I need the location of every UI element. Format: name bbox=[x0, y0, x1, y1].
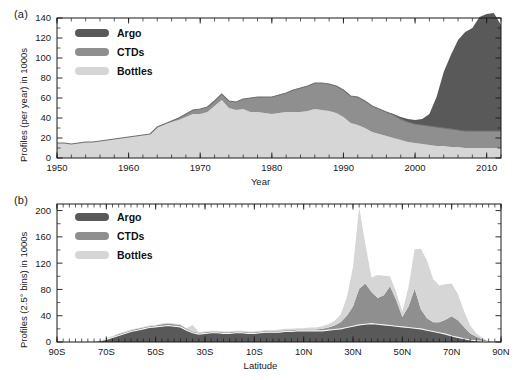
x-tick-label: 1970 bbox=[190, 162, 211, 173]
x-tick-label: 90N bbox=[492, 346, 510, 357]
y-tick-label: 0 bbox=[46, 336, 51, 347]
y-tick-label: 160 bbox=[35, 231, 51, 242]
x-tick-label: 30S bbox=[197, 346, 214, 357]
y-tick-label: 140 bbox=[35, 12, 51, 23]
panel-a: (a) Profiles (per year) in 1000s Year 19… bbox=[0, 0, 521, 190]
area-bottles bbox=[57, 207, 501, 342]
x-tick-label: 10S bbox=[246, 346, 263, 357]
y-tick-label: 100 bbox=[35, 52, 51, 63]
y-tick-label: 0 bbox=[46, 152, 51, 163]
x-tick-label: 2000 bbox=[404, 162, 425, 173]
x-tick-label: 90S bbox=[49, 346, 66, 357]
legend-swatch-bottles bbox=[75, 67, 109, 75]
legend-swatch-argo bbox=[75, 29, 109, 37]
legend-swatch-ctds bbox=[75, 48, 109, 56]
y-tick-label: 120 bbox=[35, 32, 51, 43]
panel-b-x-axis-label: Latitude bbox=[0, 360, 521, 371]
x-tick-label: 30N bbox=[344, 346, 362, 357]
y-tick-label: 120 bbox=[35, 258, 51, 269]
y-tick-label: 40 bbox=[40, 310, 51, 321]
y-tick-label: 80 bbox=[40, 72, 51, 83]
x-tick-label: 2010 bbox=[476, 162, 497, 173]
x-tick-label: 1980 bbox=[261, 162, 282, 173]
legend-label-argo: Argo bbox=[117, 211, 142, 223]
panel-b-y-axis-label: Profiles (2.5° bins) in 1000s bbox=[18, 232, 29, 348]
panel-b-label: (b) bbox=[14, 194, 28, 206]
panel-a-y-axis-label: Profiles (per year) in 1000s bbox=[18, 48, 29, 162]
legend-label-ctds: CTDs bbox=[117, 230, 145, 242]
panel-a-plot: 1950196019701980199020002010020406080100… bbox=[0, 0, 521, 176]
x-tick-label: 50S bbox=[147, 346, 164, 357]
y-tick-label: 80 bbox=[40, 284, 51, 295]
x-tick-label: 1990 bbox=[333, 162, 354, 173]
x-tick-label: 70N bbox=[443, 346, 461, 357]
y-tick-label: 40 bbox=[40, 112, 51, 123]
y-tick-label: 20 bbox=[40, 132, 51, 143]
x-tick-label: 50N bbox=[394, 346, 412, 357]
legend-label-bottles: Bottles bbox=[117, 249, 153, 261]
legend-label-ctds: CTDs bbox=[117, 46, 145, 58]
panel-a-x-axis-label: Year bbox=[0, 176, 521, 187]
y-tick-label: 60 bbox=[40, 92, 51, 103]
x-tick-label: 70S bbox=[98, 346, 115, 357]
x-tick-label: 10N bbox=[295, 346, 313, 357]
figure-container: (a) Profiles (per year) in 1000s Year 19… bbox=[0, 0, 521, 380]
x-tick-label: 1960 bbox=[118, 162, 139, 173]
legend-swatch-ctds bbox=[75, 232, 109, 240]
x-tick-label: 1950 bbox=[46, 162, 67, 173]
legend-label-bottles: Bottles bbox=[117, 65, 153, 77]
legend-swatch-argo bbox=[75, 213, 109, 221]
panel-a-label: (a) bbox=[14, 8, 28, 20]
y-tick-label: 200 bbox=[35, 205, 51, 216]
panel-b-plot: 90S70S50S30S10S10N30N50N70N90N0408012016… bbox=[0, 190, 521, 360]
legend-label-argo: Argo bbox=[117, 27, 142, 39]
legend-swatch-bottles bbox=[75, 251, 109, 259]
panel-b: (b) Profiles (2.5° bins) in 1000s Latitu… bbox=[0, 190, 521, 380]
